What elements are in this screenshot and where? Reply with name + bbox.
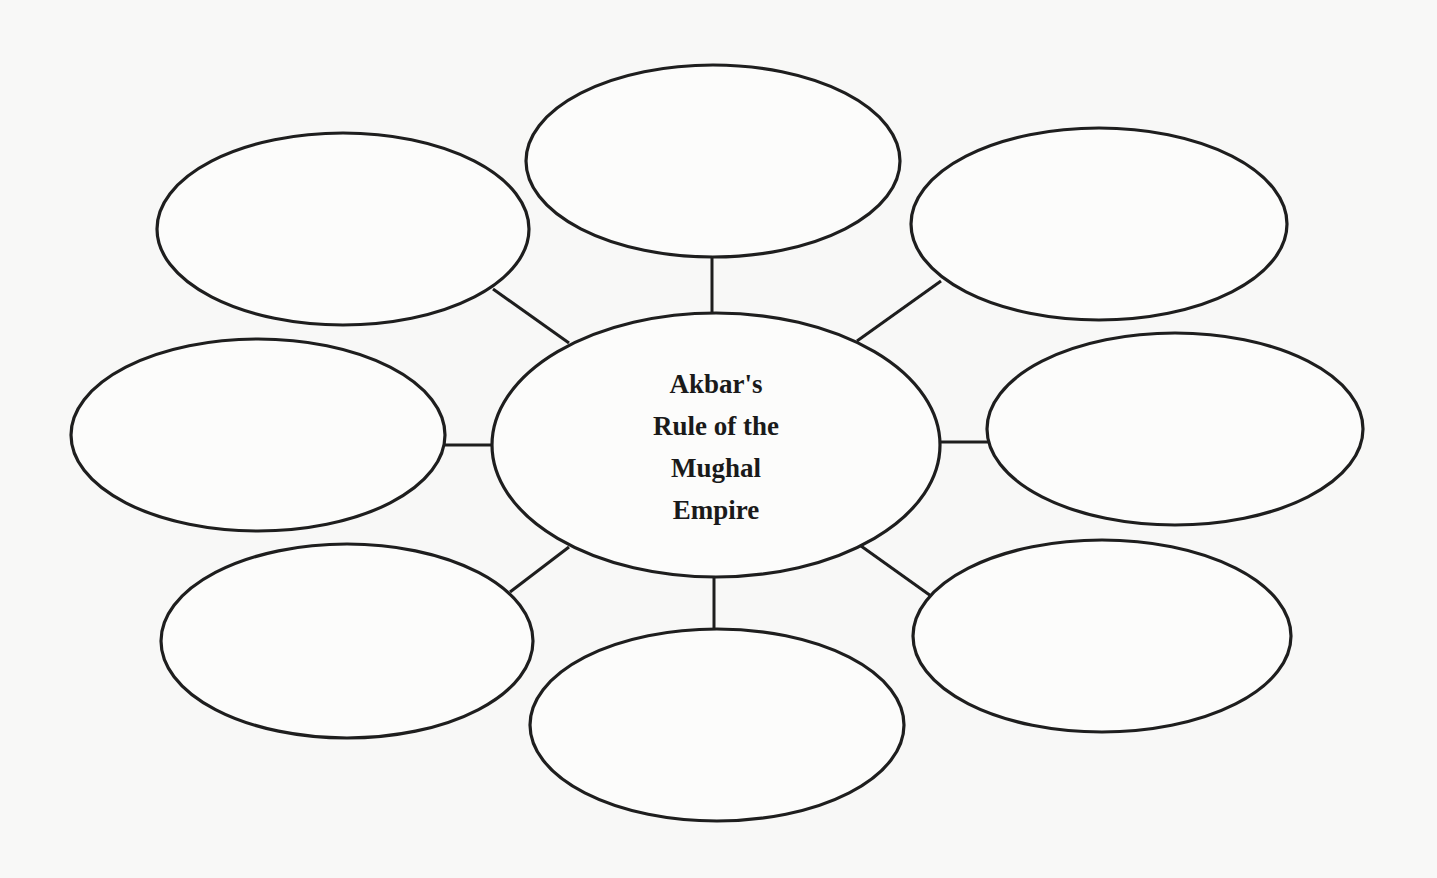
center-title-line-2: Rule of the xyxy=(653,405,779,447)
center-title-line-4: Empire xyxy=(673,489,760,531)
bubble-top xyxy=(526,65,900,257)
center-title-line-1: Akbar's xyxy=(669,363,762,405)
bubble-top-right xyxy=(911,128,1287,320)
center-topic-label: Akbar's Rule of the Mughal Empire xyxy=(492,313,940,578)
center-title-line-3: Mughal xyxy=(671,447,761,489)
bubble-right xyxy=(987,333,1363,525)
bubble-bottom xyxy=(530,629,904,821)
bubble-top-left xyxy=(157,133,529,325)
bubble-left xyxy=(71,339,445,531)
bubble-bottom-right xyxy=(913,540,1291,732)
bubble-bottom-left xyxy=(161,544,533,738)
